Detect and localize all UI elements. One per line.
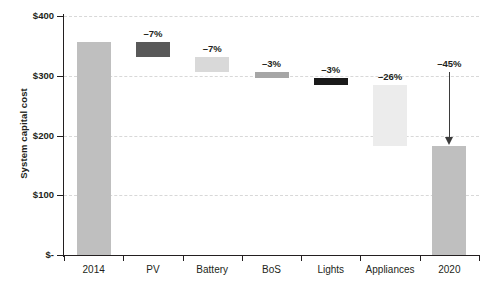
x-axis-tick-mark bbox=[420, 255, 421, 261]
bar-value-label-appliances: –26% bbox=[355, 71, 425, 82]
x-axis-tick-mark bbox=[242, 255, 243, 261]
x-axis-tick-mark bbox=[123, 255, 124, 261]
y-axis-tick-label: $- bbox=[8, 249, 54, 260]
gridline bbox=[64, 16, 479, 17]
bar-2020 bbox=[432, 146, 466, 255]
y-axis-tick-mark bbox=[57, 76, 64, 77]
y-axis-tick-mark bbox=[57, 195, 64, 196]
x-axis-tick-mark bbox=[183, 255, 184, 261]
x-axis-tick-mark bbox=[301, 255, 302, 261]
y-axis-tick-label: $300 bbox=[8, 70, 54, 81]
x-axis-tick-mark bbox=[64, 255, 65, 261]
y-axis-tick-label: $100 bbox=[8, 189, 54, 200]
bar-lights bbox=[314, 78, 348, 85]
arrow-shaft bbox=[449, 72, 450, 138]
x-axis-tick-mark bbox=[479, 255, 480, 261]
bar-value-label-pv: –7% bbox=[118, 28, 188, 39]
x-axis-tick-mark bbox=[360, 255, 361, 261]
x-axis-line bbox=[63, 255, 480, 256]
waterfall-chart: System capital cost $400$300$200$100$- 2… bbox=[0, 0, 488, 288]
arrow-value-label: –45% bbox=[414, 58, 484, 69]
y-axis-tick-mark bbox=[57, 16, 64, 17]
y-axis-tick-mark bbox=[57, 136, 64, 137]
arrow-head-icon bbox=[445, 137, 453, 145]
bar-2014 bbox=[77, 42, 111, 255]
x-axis-tick-label-2020: 2020 bbox=[404, 264, 488, 275]
y-axis-tick-label: $200 bbox=[8, 130, 54, 141]
bar-value-label-battery: –7% bbox=[177, 43, 247, 54]
bar-appliances bbox=[373, 85, 407, 146]
y-axis-tick-label: $400 bbox=[8, 10, 54, 21]
y-axis-tick-mark bbox=[57, 255, 64, 256]
bar-bos bbox=[255, 72, 289, 79]
bar-pv bbox=[136, 42, 170, 57]
gridline bbox=[64, 195, 479, 196]
bar-battery bbox=[195, 57, 229, 72]
gridline bbox=[64, 136, 479, 137]
